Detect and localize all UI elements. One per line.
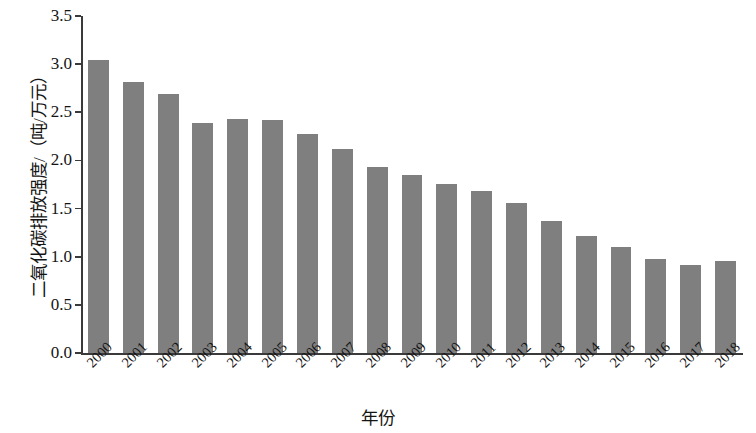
bar bbox=[367, 167, 388, 353]
y-axis-tick-labels: 0.00.51.01.52.02.53.03.5 bbox=[24, 0, 72, 433]
bar bbox=[576, 236, 597, 353]
bar bbox=[506, 203, 527, 353]
bar bbox=[402, 175, 423, 353]
y-axis-tick-label: 2.0 bbox=[28, 151, 72, 168]
y-axis-tick-label: 3.5 bbox=[28, 7, 72, 24]
bar bbox=[436, 184, 457, 353]
x-axis-title: 年份 bbox=[0, 404, 756, 429]
y-axis-tick-label: 0.0 bbox=[28, 344, 72, 361]
bar bbox=[158, 94, 179, 353]
bar bbox=[297, 134, 318, 353]
bar-series bbox=[81, 16, 743, 353]
bar bbox=[471, 191, 492, 353]
bar bbox=[88, 60, 109, 353]
bar bbox=[541, 221, 562, 353]
bar bbox=[262, 120, 283, 353]
y-axis-tick-label: 2.5 bbox=[28, 103, 72, 120]
y-axis-tick-label: 1.5 bbox=[28, 200, 72, 217]
y-axis-tick-label: 0.5 bbox=[28, 296, 72, 313]
bar bbox=[645, 259, 666, 353]
y-axis-tick-label: 1.0 bbox=[28, 248, 72, 265]
plot-area bbox=[81, 16, 743, 353]
bar bbox=[192, 123, 213, 353]
bar bbox=[611, 247, 632, 353]
bar-chart: 二氧化碳排放强度/（吨/万元） 0.00.51.01.52.02.53.03.5… bbox=[0, 0, 756, 433]
y-axis-tick-label: 3.0 bbox=[28, 55, 72, 72]
x-axis-tick-labels: 2000200120022003200420052006200720082009… bbox=[81, 356, 743, 402]
bar bbox=[123, 82, 144, 353]
bar bbox=[332, 149, 353, 353]
bar bbox=[227, 119, 248, 353]
